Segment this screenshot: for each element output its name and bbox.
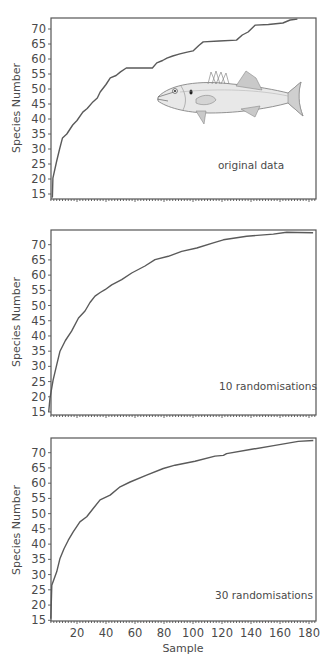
y-tick-label: 50 xyxy=(31,299,46,313)
y-tick-label: 40 xyxy=(31,329,46,343)
panel-2-y-ticks: 152025303540455055606570 xyxy=(31,238,51,419)
y-tick-label: 65 xyxy=(31,37,46,51)
species-accumulation-figure: 152025303540455055606570 Species Number … xyxy=(0,0,334,668)
sea-bass-fish-illustration xyxy=(157,71,303,124)
y-tick-label: 60 xyxy=(31,476,46,490)
panel-original-data: 152025303540455055606570 Species Number … xyxy=(10,18,316,202)
y-tick-label: 65 xyxy=(31,461,46,475)
panel-1-annotation: original data xyxy=(218,159,284,171)
x-tick-label: 180 xyxy=(298,626,320,640)
y-tick-label: 15 xyxy=(31,613,46,627)
panel-1-y-ticks: 152025303540455055606570 xyxy=(31,22,51,201)
y-tick-label: 45 xyxy=(31,97,46,111)
y-tick-label: 45 xyxy=(31,314,46,328)
panel-1-y-axis-title: Species Number xyxy=(10,63,23,153)
y-tick-label: 25 xyxy=(31,583,46,597)
panel-10-randomisations: 152025303540455055606570 Species Number … xyxy=(10,230,317,419)
panel-3-y-axis-title: Species Number xyxy=(10,485,23,575)
y-tick-label: 35 xyxy=(31,127,46,141)
y-tick-label: 70 xyxy=(31,22,46,36)
y-tick-label: 35 xyxy=(31,552,46,566)
x-axis-title: Sample xyxy=(162,642,203,655)
y-tick-label: 30 xyxy=(31,359,46,373)
x-tick-label: 40 xyxy=(99,626,114,640)
y-tick-label: 55 xyxy=(31,67,46,81)
y-tick-label: 70 xyxy=(31,446,46,460)
x-tick-label: 80 xyxy=(157,626,172,640)
y-tick-label: 35 xyxy=(31,344,46,358)
panel-30-randomisations: 152025303540455055606570 204060801001201… xyxy=(10,438,320,655)
y-tick-label: 40 xyxy=(31,537,46,551)
y-tick-label: 20 xyxy=(31,390,46,404)
y-tick-label: 70 xyxy=(31,238,46,252)
y-tick-label: 20 xyxy=(31,172,46,186)
y-tick-label: 65 xyxy=(31,253,46,267)
y-tick-label: 15 xyxy=(31,405,46,419)
y-tick-label: 55 xyxy=(31,283,46,297)
y-tick-label: 30 xyxy=(31,142,46,156)
panel-2-annotation: 10 randomisations xyxy=(219,380,317,392)
y-tick-label: 25 xyxy=(31,375,46,389)
x-tick-label: 60 xyxy=(128,626,143,640)
y-tick-label: 15 xyxy=(31,187,46,201)
x-tick-label: 100 xyxy=(182,626,204,640)
y-tick-label: 60 xyxy=(31,268,46,282)
panel-3-x-tick-labels: 20406080100120140160180 xyxy=(70,626,320,640)
panel-2-y-axis-title: Species Number xyxy=(10,277,23,367)
y-tick-label: 25 xyxy=(31,157,46,171)
y-tick-label: 45 xyxy=(31,522,46,536)
y-tick-label: 20 xyxy=(31,598,46,612)
y-tick-label: 60 xyxy=(31,52,46,66)
x-tick-label: 160 xyxy=(269,626,291,640)
y-tick-label: 50 xyxy=(31,507,46,521)
y-tick-label: 50 xyxy=(31,82,46,96)
y-tick-label: 55 xyxy=(31,491,46,505)
panel-3-annotation: 30 randomisations xyxy=(215,589,313,601)
x-tick-label: 140 xyxy=(240,626,262,640)
x-tick-label: 20 xyxy=(70,626,85,640)
x-tick-label: 120 xyxy=(211,626,233,640)
y-tick-label: 30 xyxy=(31,568,46,582)
panel-3-y-ticks: 152025303540455055606570 xyxy=(31,446,51,628)
y-tick-label: 40 xyxy=(31,112,46,126)
